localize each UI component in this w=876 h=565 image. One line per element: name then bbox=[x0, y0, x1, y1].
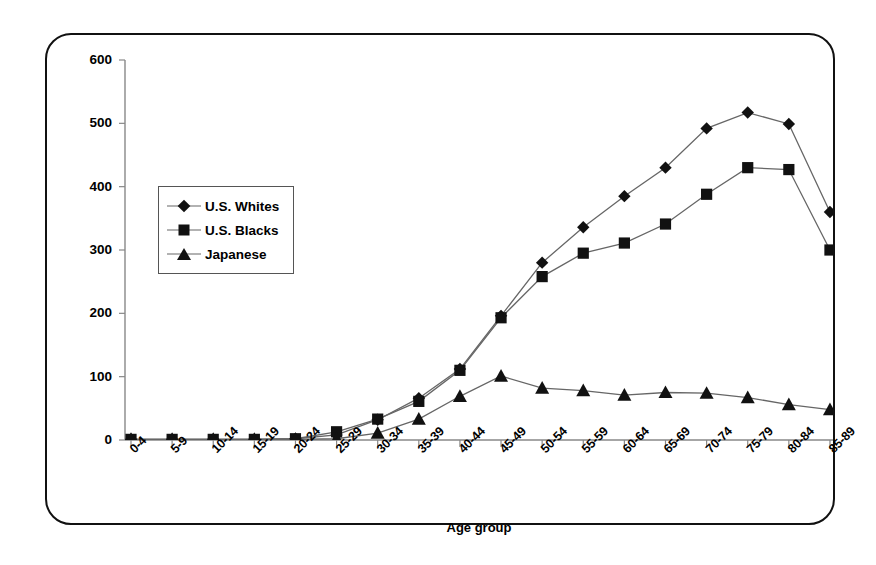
triangle-marker bbox=[535, 381, 549, 394]
square-marker bbox=[537, 271, 548, 282]
y-axis-tick-label: 200 bbox=[66, 307, 112, 321]
square-marker bbox=[783, 164, 794, 175]
triangle-marker bbox=[167, 247, 201, 261]
triangle-marker bbox=[453, 389, 467, 402]
x-axis-tick-labels: 0-45-910-1415-1920-2425-2930-3435-3940-4… bbox=[125, 446, 833, 516]
legend-item-label: U.S. Whites bbox=[205, 199, 279, 214]
square-marker bbox=[167, 223, 201, 237]
square-marker bbox=[660, 218, 671, 229]
series-line-0 bbox=[131, 113, 830, 440]
diamond-marker-glyph bbox=[178, 200, 191, 213]
diamond-marker bbox=[783, 118, 795, 130]
y-axis-tick-label: 0 bbox=[66, 433, 112, 447]
square-marker bbox=[701, 189, 712, 200]
y-axis-tick-label: 500 bbox=[66, 117, 112, 131]
square-marker bbox=[742, 162, 753, 173]
square-marker bbox=[824, 244, 835, 255]
square-marker bbox=[619, 237, 630, 248]
legend-item: U.S. Blacks bbox=[167, 218, 279, 242]
diamond-marker bbox=[742, 106, 754, 118]
legend-item-label: U.S. Blacks bbox=[205, 223, 279, 238]
triangle-marker-glyph bbox=[177, 248, 191, 260]
legend-item-label: Japanese bbox=[205, 247, 267, 262]
triangle-marker bbox=[494, 369, 508, 382]
square-marker bbox=[454, 365, 465, 376]
square-marker-glyph bbox=[179, 225, 190, 236]
x-axis-title: Age group bbox=[125, 520, 833, 535]
square-marker bbox=[372, 414, 383, 425]
square-marker bbox=[495, 312, 506, 323]
y-axis-tick-labels: 6005004003002001000 bbox=[64, 60, 112, 440]
triangle-marker bbox=[412, 412, 426, 425]
y-axis-tick-label: 400 bbox=[66, 180, 112, 194]
legend-item: U.S. Whites bbox=[167, 194, 279, 218]
square-marker bbox=[413, 396, 424, 407]
legend-item: Japanese bbox=[167, 242, 279, 266]
chart-legend: U.S. WhitesU.S. BlacksJapanese bbox=[158, 186, 294, 274]
square-marker bbox=[578, 248, 589, 259]
y-axis-tick-label: 300 bbox=[66, 243, 112, 257]
diamond-marker bbox=[618, 190, 630, 202]
y-axis-tick-label: 100 bbox=[66, 370, 112, 384]
diamond-marker bbox=[167, 199, 201, 213]
figure-root: Incidence rate per 100,000 6005004003002… bbox=[0, 0, 876, 565]
y-axis-tick-label: 600 bbox=[66, 53, 112, 67]
triangle-marker bbox=[658, 386, 672, 399]
